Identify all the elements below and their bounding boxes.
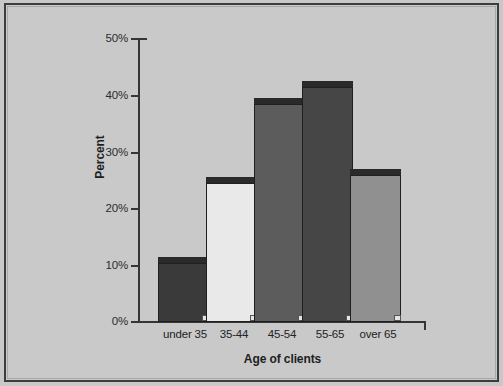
y-tick-label-0-wrap: 0% [88,315,128,329]
y-tick-label-20-wrap: 20% [88,202,128,216]
bar-35-44-face [206,183,257,322]
y-tick-label-50: 50% [88,32,128,44]
y-tick-20 [131,208,140,210]
y-tick-0 [131,321,140,323]
y-tick-label-10: 10% [88,259,128,271]
y-tick-10 [131,265,140,267]
bar-over-65-face [350,175,401,322]
y-tick-label-40: 40% [88,89,128,101]
y-axis-title: Percent [93,117,107,197]
bar-under-35-face [158,263,209,322]
y-axis-line [138,38,140,323]
plot-area: 50% 40% 30% 20% 10% 0% [0,0,503,386]
y-tick-30 [131,152,140,154]
bar-45-54-face [254,104,305,322]
bar-over-65 [350,169,406,322]
x-axis-end-cap [424,321,426,330]
chart-figure: 50% 40% 30% 20% 10% 0% [0,0,503,386]
x-axis-title: Age of clients [139,352,426,366]
y-tick-label-50-wrap: 50% [88,32,128,46]
bar-55-65-face [302,87,353,322]
y-tick-40 [131,95,140,97]
y-tick-50 [131,38,140,40]
y-tick-label-0: 0% [88,315,128,327]
bar-over-65-foot [394,315,401,321]
y-tick-label-40-wrap: 40% [88,89,128,103]
y-tick-label-10-wrap: 10% [88,259,128,273]
x-tick-label-over-65: over 65 [343,328,413,340]
y-tick-label-20: 20% [88,202,128,214]
